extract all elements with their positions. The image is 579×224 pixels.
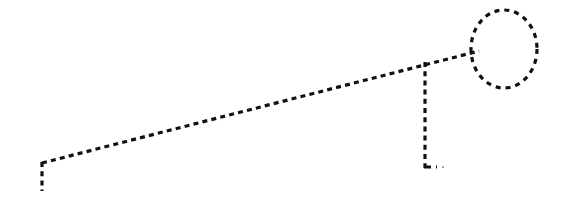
canvas-background — [0, 0, 579, 224]
stray-dot — [442, 166, 444, 168]
drawing-canvas — [0, 0, 579, 224]
dashed-sketch-svg — [0, 0, 579, 224]
